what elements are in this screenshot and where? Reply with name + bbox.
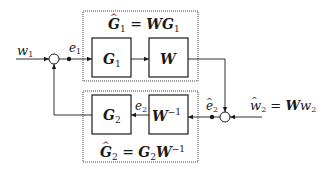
svg-text:^: ^: [251, 95, 258, 104]
signal-label-e2hat: e2 ^: [206, 96, 218, 114]
svg-text:w2 = Ww2: w2 = Ww2: [250, 98, 316, 114]
hat-accent: ^: [102, 140, 110, 150]
svg-text:^: ^: [206, 96, 213, 105]
bottom-group-title: G2 = G2W−1 ^: [100, 140, 185, 162]
signal-label-e2: e2: [135, 99, 147, 114]
signal-label-e1: e1: [69, 41, 81, 56]
summing-junction-2: [220, 112, 230, 122]
block-w-label: W: [160, 51, 177, 67]
summing-junction-1: [49, 54, 59, 64]
signal-label-w2hat: w2 = Ww2 ^: [250, 95, 316, 114]
svg-text:G2 = G2W−1: G2 = G2W−1: [100, 144, 185, 162]
top-group-title: G1 = WG1 ^: [108, 12, 180, 34]
block-diagram: G1 = WG1 ^ G2 = G2W−1 ^ G1 W G2 W−1 w1 e…: [0, 0, 331, 173]
signal-label-w1: w1: [17, 43, 33, 59]
wire-g2-feedback: [54, 64, 92, 115]
svg-text:G1 = WG1: G1 = WG1: [108, 16, 180, 34]
hat-accent: ^: [110, 12, 118, 22]
